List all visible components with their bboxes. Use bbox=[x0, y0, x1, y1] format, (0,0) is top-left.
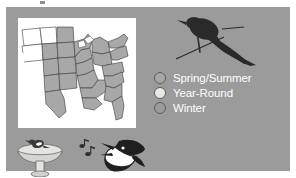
grackle-silhouette bbox=[164, 13, 270, 71]
singing-bird-head-icon bbox=[99, 135, 147, 177]
legend-label-winter: Winter bbox=[173, 102, 206, 114]
slide-panel: Spring/Summer Year-Round Winter bbox=[6, 7, 290, 171]
legend-swatch-year-round bbox=[154, 87, 166, 99]
us-range-map bbox=[18, 18, 136, 128]
top-artifact bbox=[40, 1, 45, 4]
legend-label-year-round: Year-Round bbox=[173, 87, 233, 99]
legend: Spring/Summer Year-Round Winter bbox=[154, 71, 288, 116]
legend-item-year-round[interactable]: Year-Round bbox=[154, 86, 288, 100]
birdbath-icon bbox=[14, 133, 66, 177]
legend-item-winter[interactable]: Winter bbox=[154, 101, 288, 115]
birdbath-icon-graphic bbox=[14, 133, 66, 177]
singing-bird-head-icon-graphic bbox=[99, 135, 147, 177]
legend-item-spring-summer[interactable]: Spring/Summer bbox=[154, 71, 288, 85]
music-notes-icon bbox=[78, 138, 100, 160]
grackle-silhouette-graphic bbox=[164, 13, 270, 71]
us-range-map-graphic bbox=[18, 18, 136, 128]
legend-label-spring-summer: Spring/Summer bbox=[173, 72, 252, 84]
music-notes-icon-graphic bbox=[78, 138, 100, 160]
legend-swatch-winter bbox=[154, 102, 166, 114]
legend-swatch-spring-summer bbox=[154, 72, 166, 84]
